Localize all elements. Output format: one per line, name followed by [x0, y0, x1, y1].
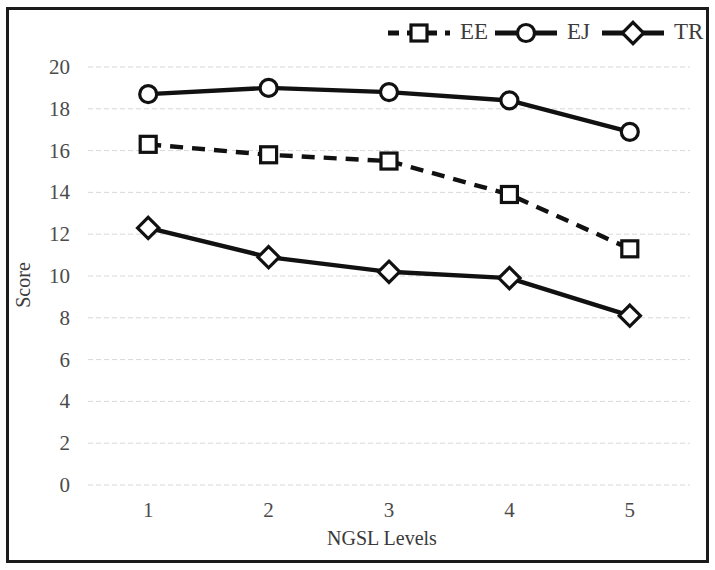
square-marker: [411, 25, 427, 41]
x-axis-tick-labels: 12345: [143, 498, 635, 522]
line-chart-svg: 02468101214161820 12345 EEEJTR Score NGS…: [0, 0, 715, 570]
x-axis-tick-label: 3: [384, 498, 395, 522]
plot-area: 02468101214161820 12345 EEEJTR Score NGS…: [0, 0, 715, 570]
chart-legend: EEEJTR: [388, 19, 704, 44]
legend-item-tr[interactable]: TR: [602, 19, 704, 44]
diamond-marker: [619, 305, 640, 326]
diamond-marker: [622, 22, 643, 43]
diamond-marker: [378, 261, 399, 282]
chart-figure: 02468101214161820 12345 EEEJTR Score NGS…: [0, 0, 715, 570]
legend-label: EE: [460, 19, 488, 44]
diamond-marker: [258, 247, 279, 268]
circle-marker: [518, 25, 535, 42]
circle-marker: [140, 86, 157, 103]
circle-marker: [621, 123, 638, 140]
diamond-marker: [138, 217, 159, 238]
y-axis-tick-label: 8: [60, 306, 71, 330]
square-marker: [381, 153, 397, 169]
x-axis-tick-label: 4: [504, 498, 515, 522]
series-tr: [138, 217, 641, 326]
y-axis-tick-label: 2: [60, 431, 71, 455]
series-ee: [140, 136, 638, 257]
y-axis-tick-label: 0: [60, 473, 71, 497]
y-axis-tick-label: 6: [60, 348, 71, 372]
square-marker: [501, 186, 517, 202]
x-axis-tick-label: 2: [263, 498, 274, 522]
circle-marker: [260, 79, 277, 96]
diamond-marker: [499, 267, 520, 288]
x-axis-tick-label: 5: [625, 498, 636, 522]
circle-marker: [501, 92, 518, 109]
x-axis-title: NGSL Levels: [327, 527, 437, 549]
legend-item-ej[interactable]: EJ: [495, 19, 590, 44]
y-axis-tick-label: 4: [60, 389, 71, 413]
y-axis-tick-label: 12: [49, 222, 70, 246]
data-series-group: [138, 79, 641, 326]
legend-item-ee[interactable]: EE: [388, 19, 488, 44]
y-axis-tick-label: 20: [49, 55, 70, 79]
y-axis-title: Score: [12, 262, 34, 308]
square-marker: [622, 241, 638, 257]
circle-marker: [381, 84, 398, 101]
y-axis-tick-label: 16: [49, 139, 70, 163]
legend-label: EJ: [567, 19, 590, 44]
y-axis-tick-label: 14: [49, 180, 71, 204]
series-ej: [140, 79, 639, 140]
y-axis-tick-label: 18: [49, 97, 70, 121]
x-axis-tick-label: 1: [143, 498, 154, 522]
square-marker: [261, 147, 277, 163]
y-axis-tick-label: 10: [49, 264, 70, 288]
square-marker: [140, 136, 156, 152]
y-axis-tick-labels: 02468101214161820: [49, 55, 71, 497]
legend-label: TR: [674, 19, 704, 44]
